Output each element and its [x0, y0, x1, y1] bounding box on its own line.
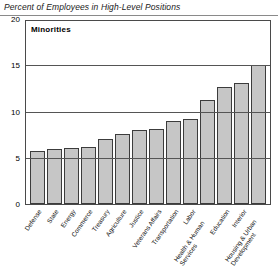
bar [251, 65, 266, 204]
bar [115, 134, 130, 204]
y-tick-label-15: 15 [11, 62, 20, 70]
x-axis-tick: Health & Human Services [201, 206, 216, 268]
y-tick-label-10: 10 [11, 109, 20, 117]
x-axis-tick: Agriculture [115, 206, 130, 268]
chart-container: Percent of Employees in High-Level Posit… [0, 0, 278, 269]
x-axis-tick: Housing & Urban Development [252, 206, 267, 268]
bar [234, 83, 249, 204]
bar [217, 87, 232, 204]
bar [98, 139, 113, 204]
bar [81, 147, 96, 204]
x-axis-tick: Defense [29, 206, 44, 268]
x-axis-tick: Treasury [98, 206, 113, 268]
gridline-10 [26, 112, 270, 113]
chart-title: Percent of Employees in High-Level Posit… [4, 2, 180, 12]
x-axis-label: Justice [128, 208, 145, 229]
y-tick-label-20: 20 [11, 16, 20, 24]
bar [132, 130, 147, 204]
y-tick-label-0: 0 [16, 201, 20, 209]
gridline-15 [26, 65, 270, 66]
bar [200, 100, 215, 204]
x-axis-label: State [45, 208, 59, 224]
title-divider [0, 15, 278, 16]
bar [166, 121, 181, 204]
x-axis-tick: State [46, 206, 61, 268]
bar-group [26, 21, 270, 204]
bar [30, 151, 45, 204]
x-axis-label: Defense [23, 208, 43, 232]
x-axis-tick: Commerce [81, 206, 96, 268]
bar [183, 119, 198, 204]
gridline-5 [26, 158, 270, 159]
bar [149, 129, 164, 204]
y-tick-label-5: 5 [16, 155, 20, 163]
bar [64, 148, 79, 204]
x-axis-label: Labor [181, 208, 196, 226]
x-axis: DefenseStateEnergyCommerceTreasuryAgricu… [25, 206, 271, 268]
y-axis: 05101520 [0, 20, 22, 205]
plot-area: Minorities [25, 20, 271, 205]
